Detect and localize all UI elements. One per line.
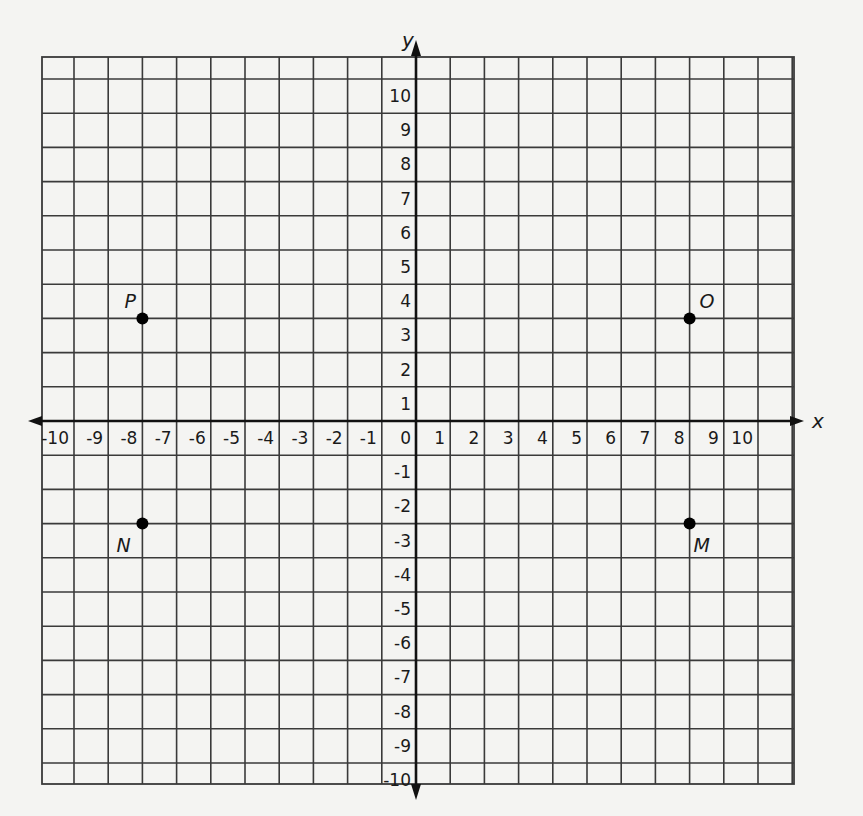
y-tick-label: -9 [394,736,411,756]
y-tick-label: 4 [400,291,411,311]
x-tick-label: 1 [434,428,445,448]
x-tick-label: -4 [257,428,274,448]
y-tick-label: 1 [400,394,411,414]
point-label-o: O [700,290,715,312]
y-tick-label: -1 [394,462,411,482]
y-tick-label: 7 [400,189,411,209]
point-o [684,312,696,324]
x-tick-label: -9 [86,428,103,448]
x-tick-label: 4 [537,428,548,448]
y-tick-label: 10 [389,86,411,106]
x-tick-label: 8 [674,428,685,448]
x-axis-left-arrow-icon [28,416,42,426]
y-tick-label: 2 [400,360,411,380]
x-tick-label: 9 [708,428,719,448]
x-axis-label: x [811,409,824,433]
point-n [136,518,148,530]
point-m [684,518,696,530]
x-tick-label: 2 [469,428,480,448]
y-tick-label: 5 [400,257,411,277]
point-label-m: M [694,534,710,556]
y-tick-label: -5 [394,599,411,619]
coordinate-plane: -10-9-8-7-6-5-4-3-2-10123456789101098765… [0,0,863,816]
x-tick-label: -8 [120,428,137,448]
y-tick-label: 3 [400,325,411,345]
x-tick-label: 3 [503,428,514,448]
tick-labels: -10-9-8-7-6-5-4-3-2-10123456789101098765… [41,86,753,790]
x-tick-label: 7 [640,428,651,448]
point-p [136,312,148,324]
y-tick-label: -2 [394,496,411,516]
x-tick-label: -1 [360,428,377,448]
x-tick-label: -6 [189,428,206,448]
x-tick-label: 0 [400,428,411,448]
y-axis-down-arrow-icon [411,784,421,800]
x-tick-label: -10 [41,428,69,448]
y-tick-label: -10 [383,770,411,790]
y-tick-label: -4 [394,565,411,585]
point-label-n: N [116,534,130,556]
x-axis-right-arrow-icon [790,416,804,426]
point-label-p: P [124,290,136,312]
x-tick-label: -7 [155,428,172,448]
x-tick-label: 10 [731,428,753,448]
y-axis-label: y [401,28,415,52]
x-tick-label: -2 [326,428,343,448]
x-tick-label: -5 [223,428,240,448]
y-tick-label: -3 [394,531,411,551]
x-tick-label: 6 [605,428,616,448]
y-tick-label: 6 [400,223,411,243]
y-tick-label: 8 [400,154,411,174]
x-tick-label: -3 [291,428,308,448]
y-tick-label: -6 [394,633,411,653]
x-tick-label: 5 [571,428,582,448]
y-tick-label: -7 [394,667,411,687]
axes [28,40,804,800]
y-tick-label: -8 [394,702,411,722]
y-tick-label: 9 [400,120,411,140]
